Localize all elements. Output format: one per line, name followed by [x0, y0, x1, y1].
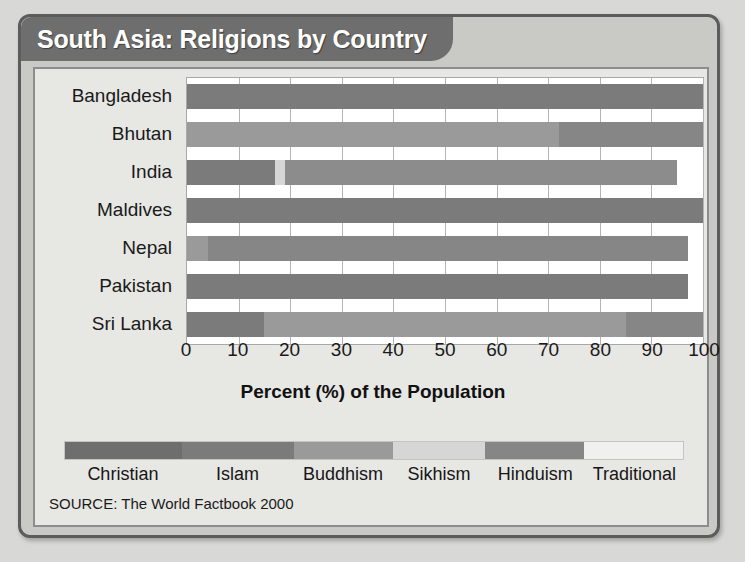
source-note: SOURCE: The World Factbook 2000	[49, 495, 294, 512]
category-label: Nepal	[122, 235, 172, 260]
category-label: India	[131, 159, 172, 184]
x-tick-label: 40	[383, 339, 404, 361]
gridline	[703, 78, 704, 344]
category-label: Bangladesh	[72, 83, 172, 108]
bar-segment[interactable]	[187, 122, 559, 147]
legend-swatch	[294, 442, 393, 459]
legend-swatch	[485, 442, 584, 459]
bar-segment[interactable]	[187, 274, 688, 299]
bar-row[interactable]	[187, 312, 703, 337]
bar-row[interactable]	[187, 160, 703, 185]
legend-color-bar	[64, 441, 684, 460]
legend-label: Islam	[182, 464, 294, 485]
bar-segment[interactable]	[285, 160, 677, 185]
x-tick-label: 70	[538, 339, 559, 361]
x-tick-label: 50	[434, 339, 455, 361]
bar-segment[interactable]	[208, 236, 688, 261]
legend-label: Hinduism	[486, 464, 585, 485]
x-axis-ticks: 0102030405060708090100	[186, 339, 704, 369]
legend: ChristianIslamBuddhismSikhismHinduismTra…	[64, 441, 684, 485]
bar-row[interactable]	[187, 198, 703, 223]
legend-label: Buddhism	[293, 464, 392, 485]
bar-segment[interactable]	[559, 122, 703, 147]
legend-swatch	[584, 442, 683, 459]
page-title: South Asia: Religions by Country	[37, 25, 427, 54]
x-tick-label: 20	[279, 339, 300, 361]
bar-segment[interactable]	[626, 312, 703, 337]
bar-segment[interactable]	[187, 160, 275, 185]
bar-segment[interactable]	[187, 84, 703, 109]
bar-row[interactable]	[187, 122, 703, 147]
category-label: Maldives	[97, 197, 172, 222]
x-tick-label: 90	[642, 339, 663, 361]
x-tick-label: 60	[486, 339, 507, 361]
x-tick-label: 0	[181, 339, 192, 361]
category-label: Pakistan	[99, 273, 172, 298]
chart-card: BangladeshBhutanIndiaMaldivesNepalPakist…	[33, 67, 709, 527]
legend-labels: ChristianIslamBuddhismSikhismHinduismTra…	[64, 464, 684, 485]
x-tick-label: 30	[331, 339, 352, 361]
legend-swatch	[65, 442, 182, 459]
category-label: Sri Lanka	[92, 311, 172, 336]
poster-title-tab: South Asia: Religions by Country	[21, 17, 453, 61]
category-axis-labels: BangladeshBhutanIndiaMaldivesNepalPakist…	[35, 77, 178, 345]
bar-segment[interactable]	[264, 312, 625, 337]
bar-segment[interactable]	[187, 236, 208, 261]
bar-segment[interactable]	[187, 312, 264, 337]
bar-segment[interactable]	[187, 198, 703, 223]
legend-label: Traditional	[585, 464, 684, 485]
bar-row[interactable]	[187, 236, 703, 261]
x-axis-title: Percent (%) of the Population	[35, 381, 711, 403]
bar-row[interactable]	[187, 84, 703, 109]
category-label: Bhutan	[112, 121, 172, 146]
bar-row[interactable]	[187, 274, 703, 299]
chart-poster: South Asia: Religions by Country Banglad…	[18, 14, 720, 538]
legend-swatch	[393, 442, 486, 459]
x-tick-label: 80	[590, 339, 611, 361]
plot-area	[186, 77, 704, 345]
plot-wrapper: BangladeshBhutanIndiaMaldivesNepalPakist…	[35, 77, 711, 377]
legend-label: Christian	[64, 464, 182, 485]
x-tick-label: 100	[688, 339, 720, 361]
legend-swatch	[182, 442, 293, 459]
x-tick-label: 10	[227, 339, 248, 361]
bar-segment[interactable]	[275, 160, 285, 185]
legend-label: Sikhism	[393, 464, 486, 485]
